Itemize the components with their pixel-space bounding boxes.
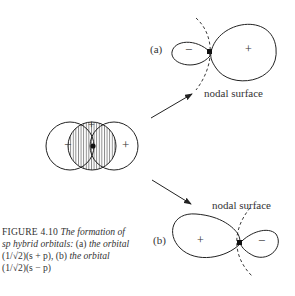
overlap-center-sign: +	[88, 118, 95, 133]
overlap-right-sign: +	[122, 137, 129, 153]
panel-a-plus-sign: +	[245, 42, 252, 57]
panel-b-nodal-label: nodal surface	[212, 199, 271, 211]
figure-number: FIGURE 4.10	[2, 226, 58, 237]
arrow-to-a	[151, 94, 192, 118]
nucleus-dot	[90, 143, 95, 148]
panel-b-plus-sign: +	[197, 233, 204, 248]
panel-a-nodal-label: nodal surface	[204, 87, 263, 99]
orbital-b-large-lobe	[173, 214, 240, 258]
overlap-left-sign: −	[64, 137, 71, 153]
panel-a-minus-sign: −	[185, 42, 192, 58]
orbital-a-large-lobe	[211, 24, 276, 81]
caption-line-2: sp hybrid orbitals: (a) the orbital	[2, 238, 152, 250]
figure-caption: FIGURE 4.10 The formation of sp hybrid o…	[2, 226, 152, 274]
caption-line-3: (1/√2)(s + p), (b) the orbital	[2, 250, 152, 262]
orbital-b-nucleus	[237, 240, 242, 245]
orbital-a-nucleus	[207, 49, 212, 54]
panel-a-label: (a)	[150, 43, 162, 55]
panel-b-label: (b)	[153, 234, 166, 246]
arrow-to-b	[152, 180, 191, 204]
panel-b-minus-sign: −	[258, 233, 265, 249]
caption-line-1: FIGURE 4.10 The formation of	[2, 226, 152, 238]
caption-line-4: (1/√2)(s − p)	[2, 262, 152, 274]
